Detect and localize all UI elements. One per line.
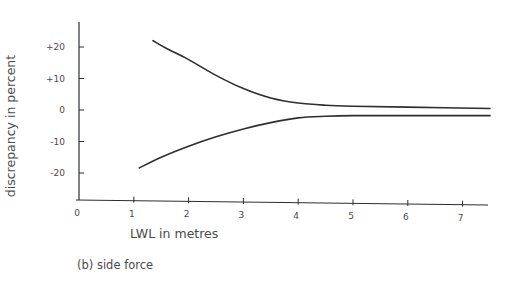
y-tick-label: -10 xyxy=(50,137,65,147)
chart: +20+100-10-2001234567 discrepancy in per… xyxy=(0,0,511,294)
y-tick-label: +20 xyxy=(46,42,65,52)
x-tick-label: 7 xyxy=(458,213,464,223)
y-tick-label: -20 xyxy=(50,168,65,178)
series xyxy=(139,41,490,168)
lower-curve xyxy=(139,116,490,168)
axes xyxy=(76,22,488,205)
figure-caption: (b) side force xyxy=(77,258,153,272)
x-tick-label: 2 xyxy=(184,209,190,219)
x-tick-label: 0 xyxy=(74,208,80,218)
x-axis-line xyxy=(76,200,488,205)
x-tick-label: 4 xyxy=(293,211,299,221)
x-tick-label: 5 xyxy=(348,211,354,221)
upper-curve xyxy=(153,41,490,109)
x-axis-label: LWL in metres xyxy=(130,226,218,241)
y-tick-label: +10 xyxy=(46,74,65,84)
ticks: +20+100-10-2001234567 xyxy=(46,42,463,223)
x-tick-label: 3 xyxy=(239,210,245,220)
y-tick-label: 0 xyxy=(59,105,65,115)
y-axis-label: discrepancy in percent xyxy=(3,55,18,197)
x-tick-label: 1 xyxy=(129,209,135,219)
x-tick-label: 6 xyxy=(403,212,409,222)
